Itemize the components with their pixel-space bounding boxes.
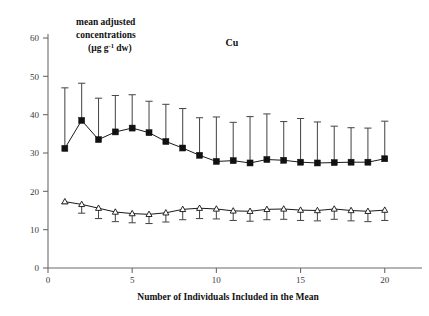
y-tick-label: 10 — [30, 225, 40, 235]
data-point-triangle — [331, 206, 337, 211]
data-point-square — [331, 160, 337, 166]
data-point-square — [247, 160, 253, 166]
data-point-square — [298, 159, 304, 165]
y-tick-label: 0 — [35, 263, 40, 273]
data-point-square — [314, 160, 320, 166]
y-tick-label: 20 — [30, 187, 40, 197]
y-axis-title-line3: (µg g-1 dw) — [88, 42, 132, 55]
data-point-square — [112, 129, 118, 135]
data-point-square — [62, 145, 68, 151]
error-bars — [61, 83, 388, 223]
data-point-triangle — [382, 207, 388, 212]
data-point-square — [264, 157, 270, 163]
x-tick-label: 0 — [46, 275, 51, 285]
data-point-square — [230, 158, 236, 164]
x-axis-title: Number of Individuals Included in the Me… — [137, 292, 319, 302]
data-point-square — [197, 152, 203, 158]
y-tick-label: 40 — [30, 110, 40, 120]
x-tick-label: 20 — [380, 275, 390, 285]
data-point-square — [382, 156, 388, 162]
data-point-triangle — [281, 206, 287, 211]
chart-axes — [48, 34, 422, 268]
data-point-square — [96, 137, 102, 143]
data-point-square — [365, 159, 371, 165]
data-point-triangle — [62, 198, 68, 203]
figure-container: 0102030405060 05101520 mean adjusted con… — [0, 0, 429, 316]
y-tick-label: 60 — [30, 33, 40, 43]
y-axis-ticks: 0102030405060 — [30, 33, 48, 273]
data-point-square — [129, 125, 135, 131]
y-tick-label: 30 — [30, 148, 40, 158]
y-tick-label: 50 — [30, 72, 40, 82]
series-markers — [62, 117, 388, 216]
data-point-square — [163, 139, 169, 145]
data-point-square — [180, 145, 186, 151]
x-tick-label: 10 — [212, 275, 222, 285]
data-point-triangle — [197, 205, 203, 210]
x-tick-label: 5 — [130, 275, 135, 285]
x-axis-ticks: 05101520 — [46, 268, 390, 285]
panel-title-cu: Cu — [226, 37, 239, 48]
cu-concentration-chart: 0102030405060 05101520 mean adjusted con… — [0, 0, 429, 316]
y-axis-title-line1: mean adjusted — [76, 17, 136, 27]
data-point-square — [146, 130, 152, 136]
y-axis-title-line2: concentrations — [76, 30, 136, 40]
data-point-square — [281, 157, 287, 163]
data-point-square — [213, 158, 219, 164]
data-point-square — [348, 159, 354, 165]
data-point-square — [79, 117, 85, 123]
series-connector-line — [65, 120, 385, 163]
x-tick-label: 15 — [296, 275, 306, 285]
